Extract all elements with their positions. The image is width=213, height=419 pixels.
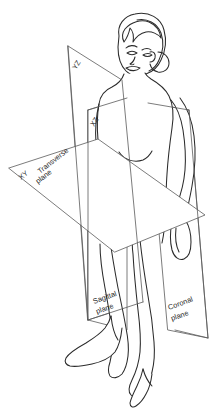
anatomical-planes-diagram: YZ XZ XY Transverse plane Sagittal plane… [0,0,213,419]
anatomy-illustration: YZ XZ XY Transverse plane Sagittal plane… [0,0,213,419]
